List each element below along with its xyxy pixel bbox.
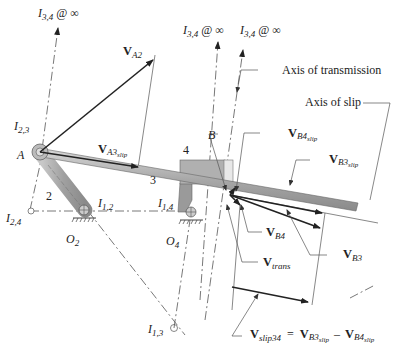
- label-o4: O4: [166, 234, 180, 250]
- label-vb3slip: VB3slip: [329, 152, 359, 169]
- label-axis-slip: Axis of slip: [305, 95, 361, 109]
- kinematic-diagram: I3,4@ ∞ I3,4@ ∞ I3,4@ ∞ I2,3 I2,4 I1,2 I…: [0, 0, 404, 354]
- label-i14: I1,4: [157, 196, 174, 212]
- label-link-2: 2: [46, 189, 52, 203]
- i12-i13-line: [88, 211, 185, 335]
- label-va3slip: VA3slip: [98, 142, 128, 159]
- trans-axis-leader: [237, 70, 258, 92]
- equation-vslip34: Vslip34=VB3slip–VB4slip: [250, 327, 375, 344]
- slip-axis-ext: [350, 285, 375, 298]
- dim-left: [232, 205, 240, 310]
- label-axis-transmission: Axis of transmission: [282, 63, 381, 77]
- label-vb3: VB3: [343, 247, 363, 263]
- label-vb4: VB4: [266, 225, 286, 241]
- label-i24: I2,4: [5, 211, 22, 227]
- label-point-b: B: [208, 128, 216, 142]
- diagram-svg: I3,4@ ∞ I3,4@ ∞ I3,4@ ∞ I2,3 I2,4 I1,2 I…: [0, 0, 404, 354]
- label-i23: I2,3: [13, 119, 30, 135]
- label-i13: I1,3: [147, 322, 164, 338]
- i24-i23-line: [30, 165, 40, 210]
- i13-o4-line: [174, 220, 190, 328]
- proj-va2: [138, 55, 155, 168]
- label-vtrans: Vtrans: [263, 255, 291, 271]
- label-o2: O2: [66, 232, 80, 248]
- i24-point: [28, 208, 34, 214]
- label-va2: VA2: [123, 44, 143, 60]
- projection-lines: [138, 55, 390, 310]
- label-vb4slip: VB4slip: [288, 126, 318, 143]
- label-link-3: 3: [150, 173, 156, 187]
- label-i12: I1,2: [97, 196, 114, 212]
- vector-vslip34: [232, 287, 308, 302]
- slip-axis-leader: [363, 103, 390, 200]
- label-i34-mid: I3,4@ ∞: [182, 23, 224, 39]
- label-point-a: A: [16, 148, 25, 162]
- label-i34-right: I3,4@ ∞: [239, 23, 281, 39]
- label-link-4: 4: [183, 143, 189, 157]
- label-i34-left: I3,4@ ∞: [37, 6, 79, 22]
- vector-va2: [40, 60, 153, 152]
